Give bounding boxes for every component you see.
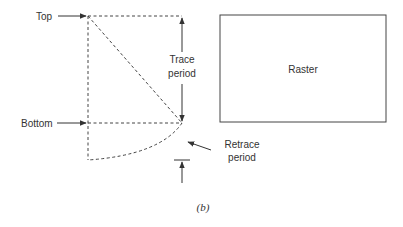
scan-dashed-lines [88,16,182,160]
retrace-curve [88,123,182,160]
raster-label: Raster [288,64,318,75]
bottom-label: Bottom [21,118,53,129]
figure-caption: (b) [197,201,210,214]
retrace-label-line2: period [228,152,256,163]
trace-label-line1: Trace [169,54,195,65]
trace-label-line2: period [168,68,196,79]
vertical-scan-diagram: Top Bottom Trace period Retrace period R… [0,0,403,227]
top-label: Top [36,11,53,22]
retrace-pointer-arrow [188,142,211,150]
retrace-label-line1: Retrace [224,139,259,150]
retrace-period-marker [174,160,190,183]
